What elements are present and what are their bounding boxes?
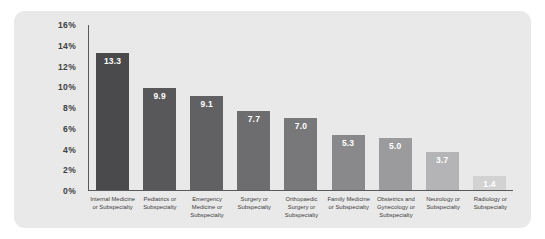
bar-value-label: 9.9	[143, 91, 176, 101]
bar-value-label: 5.0	[379, 141, 412, 151]
bar-slot: 9.9	[136, 25, 183, 190]
bar[interactable]: 7.7	[237, 111, 270, 190]
bar-value-label: 5.3	[332, 138, 365, 148]
bar-slot: 9.1	[183, 25, 230, 190]
x-axis-category-label: Obstetrics and Gynecology or Subspecialt…	[372, 195, 419, 220]
bar[interactable]: 9.1	[190, 96, 223, 190]
x-axis-line	[88, 190, 513, 191]
bar-value-label: 3.7	[426, 155, 459, 165]
bar-slot: 3.7	[419, 25, 466, 190]
y-axis-tick: 16%	[58, 20, 76, 30]
bar[interactable]: 1.4	[473, 176, 506, 190]
y-axis-tick: 0%	[63, 186, 76, 196]
x-axis-category-label: Pediatrics or Subspecialty	[136, 195, 183, 220]
y-axis-tick: 12%	[58, 62, 76, 72]
x-axis-category-label: Orthopaedic Surgery or Subspecialty	[278, 195, 325, 220]
y-axis-tick: 10%	[58, 82, 76, 92]
y-axis-tick: 14%	[58, 41, 76, 51]
bar[interactable]: 9.9	[143, 88, 176, 190]
bar-slot: 5.3	[325, 25, 372, 190]
bar[interactable]: 5.3	[332, 135, 365, 190]
bar-slot: 5.0	[372, 25, 419, 190]
bar-slot: 7.7	[230, 25, 277, 190]
bar-series: 13.39.99.17.77.05.35.03.71.4	[89, 25, 513, 190]
bar[interactable]: 13.3	[96, 53, 129, 190]
y-axis-tick: 4%	[63, 145, 76, 155]
bar-value-label: 7.0	[284, 121, 317, 131]
bar[interactable]: 5.0	[379, 138, 412, 190]
bar[interactable]: 7.0	[284, 118, 317, 190]
bar-slot: 13.3	[89, 25, 136, 190]
x-axis-category-labels: Internal Medicine or SubspecialtyPediatr…	[89, 195, 514, 220]
plot-area: 13.39.99.17.77.05.35.03.71.4	[88, 25, 513, 191]
bar-value-label: 1.4	[473, 179, 506, 189]
x-axis-category-label: Neurology or Subspecialty	[420, 195, 467, 220]
bar-value-label: 9.1	[190, 99, 223, 109]
bar-value-label: 13.3	[96, 56, 129, 66]
x-axis-category-label: Emergency Medicine or Subspecialty	[183, 195, 230, 220]
y-axis-tick: 2%	[63, 165, 76, 175]
x-axis-category-label: Radiology or Subspecialty	[467, 195, 514, 220]
bar-slot: 1.4	[466, 25, 513, 190]
bar[interactable]: 3.7	[426, 152, 459, 190]
y-axis-tick: 6%	[63, 124, 76, 134]
y-axis-tick: 8%	[63, 103, 76, 113]
x-axis-category-label: Family Medicine or Subspecialty	[325, 195, 372, 220]
chart-panel: 0%2%4%6%8%10%12%14%16% 13.39.99.17.77.05…	[14, 11, 531, 228]
y-axis-tick-labels: 0%2%4%6%8%10%12%14%16%	[14, 25, 82, 191]
x-axis-category-label: Surgery or Subspecialty	[231, 195, 278, 220]
x-axis-category-label: Internal Medicine or Subspecialty	[89, 195, 136, 220]
bar-value-label: 7.7	[237, 114, 270, 124]
bar-slot: 7.0	[277, 25, 324, 190]
